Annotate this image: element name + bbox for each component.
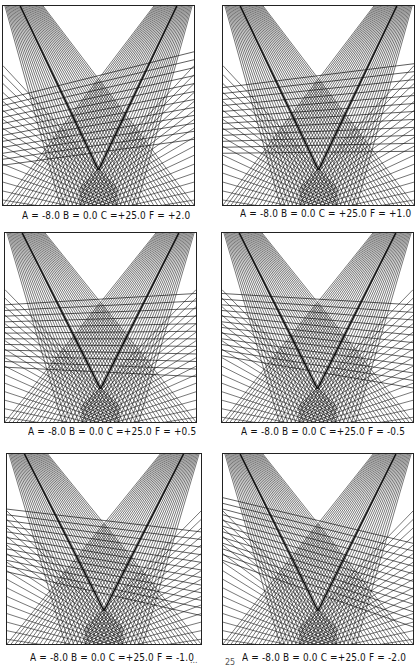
plot-frame-6 xyxy=(222,453,414,645)
line-envelope-plot-4 xyxy=(222,233,413,422)
caption-4: A = -8.0 B = 0.0 C =+25.0 F = -0.5 xyxy=(241,425,405,437)
caption-2: A = -8.0 B = 0.0 C = +25.0 F = +1.0 xyxy=(240,207,411,219)
caption-1: A = -8.0 B = 0.0 C =+25.0 F = +2.0 xyxy=(22,209,190,221)
caption-5: A = -8.0 B = 0.0 C =+25.0 F = -1.0 xyxy=(30,651,194,663)
line-envelope-plot-5 xyxy=(7,454,201,644)
line-envelope-plot-2 xyxy=(223,6,414,205)
line-envelope-plot-3 xyxy=(5,233,196,422)
line-envelope-plot-1 xyxy=(3,6,194,205)
plot-frame-1 xyxy=(2,5,195,206)
plot-frame-2 xyxy=(222,5,415,206)
stray-mark-right: 25 xyxy=(225,658,235,667)
caption-3: A = -8.0 B = 0.0 C =+25.0 F = +0.5 xyxy=(28,425,196,437)
plot-frame-5 xyxy=(6,453,202,645)
plot-frame-3 xyxy=(4,232,197,423)
stray-mark-left: ... xyxy=(190,656,198,665)
caption-6: A = -8.0 B = 0.0 C =+25.0 F = -2.0 xyxy=(242,651,406,663)
plot-frame-4 xyxy=(221,232,414,423)
line-envelope-plot-6 xyxy=(223,454,413,644)
